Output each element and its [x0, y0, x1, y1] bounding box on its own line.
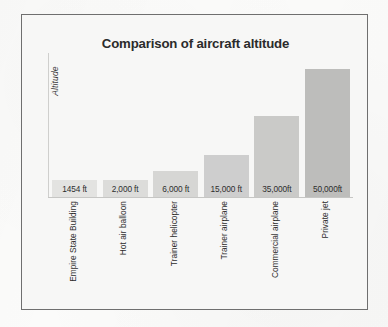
chart-frame: Comparison of aircraft altitude Altitude…: [21, 14, 368, 310]
bar-value-label: 35,000ft: [262, 184, 291, 194]
bar-commercial-airplane[interactable]: 35,000ft: [254, 116, 299, 197]
y-axis-spine: [48, 53, 49, 198]
bar-slot: 2,000 ft: [103, 53, 148, 197]
chart-title: Comparison of aircraft altitude: [22, 36, 369, 51]
cat-slot: Trainer airplane: [204, 201, 249, 305]
bar-trainer-helicopter[interactable]: 6,000 ft: [153, 171, 198, 197]
category-label-trainer-airplane: Trainer airplane: [219, 201, 233, 305]
category-label-trainer-helicopter: Trainer helicopter: [169, 201, 183, 305]
category-label-hot-air-balloon: Hot air balloon: [118, 201, 132, 305]
bar-value-label: 2,000 ft: [112, 184, 139, 194]
category-label-commercial-airplane: Commercial airplane: [270, 201, 284, 305]
bar-empire-state-building[interactable]: 1454 ft: [52, 180, 97, 197]
bar-slot: 6,000 ft: [153, 53, 198, 197]
bar-slot: 35,000ft: [254, 53, 299, 197]
bar-value-label: 6,000 ft: [162, 184, 189, 194]
x-axis-category-labels: Empire State Building Hot air balloon Tr…: [52, 201, 350, 305]
chart-page: Comparison of aircraft altitude Altitude…: [0, 0, 388, 327]
bar-hot-air-balloon[interactable]: 2,000 ft: [103, 180, 148, 197]
bar-value-label: 15,000 ft: [211, 184, 242, 194]
cat-slot: Private jet: [305, 201, 350, 305]
bar-value-label: 50,000ft: [313, 184, 342, 194]
bar-slot: 50,000ft: [305, 53, 350, 197]
bar-private-jet[interactable]: 50,000ft: [305, 69, 350, 197]
category-label-private-jet: Private jet: [320, 201, 334, 305]
bar-series: 1454 ft 2,000 ft 6,000 ft 15,000 ft: [52, 53, 350, 197]
cat-slot: Trainer helicopter: [153, 201, 198, 305]
bar-trainer-airplane[interactable]: 15,000 ft: [204, 155, 249, 197]
plot-area: 1454 ft 2,000 ft 6,000 ft 15,000 ft: [48, 53, 353, 198]
bar-slot: 1454 ft: [52, 53, 97, 197]
cat-slot: Commercial airplane: [254, 201, 299, 305]
bar-value-label: 1454 ft: [62, 184, 87, 194]
cat-slot: Empire State Building: [52, 201, 97, 305]
bar-slot: 15,000 ft: [204, 53, 249, 197]
x-axis-spine: [48, 197, 353, 198]
category-label-empire-state-building: Empire State Building: [68, 201, 82, 305]
cat-slot: Hot air balloon: [103, 201, 148, 305]
